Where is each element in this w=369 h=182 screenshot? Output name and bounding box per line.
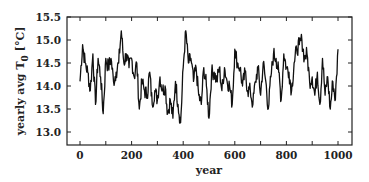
x-axis: 02004006008001000 [76, 17, 352, 161]
x-tick-label: 200 [121, 149, 143, 161]
plot-area [80, 31, 338, 123]
data-line-yearly-avg-t0 [80, 31, 338, 123]
y-tick-label: 15.5 [35, 11, 61, 23]
y-axis-title: yearly avg T0 [°C] [14, 27, 30, 137]
x-axis-title: year [195, 164, 223, 177]
y-tick-label: 13.5 [35, 103, 61, 115]
x-tick-label: 400 [172, 149, 194, 161]
y-tick-label: 15.0 [35, 34, 61, 46]
y-tick-label: 14.0 [35, 80, 61, 92]
x-tick-label: 1000 [323, 149, 352, 161]
x-tick-label: 600 [224, 149, 246, 161]
temperature-line-chart: yearly avg T0 [°C] 13.013.514.014.515.01… [0, 0, 369, 182]
x-tick-label: 0 [76, 149, 83, 161]
x-tick-label: 800 [275, 149, 297, 161]
svg-text:yearly avg T0 [°C]: yearly avg T0 [°C] [14, 27, 30, 137]
y-tick-label: 14.5 [35, 57, 61, 69]
y-tick-label: 13.0 [35, 126, 61, 138]
